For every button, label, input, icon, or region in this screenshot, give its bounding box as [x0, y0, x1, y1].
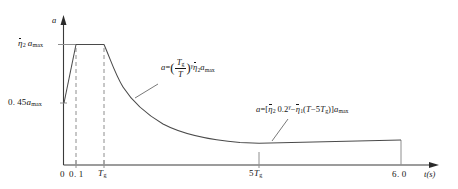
curve-segment-linear-decay: [259, 140, 401, 143]
curve-segment-rise: [64, 45, 76, 104]
y-tick-label-eta2amax: η2 amax: [18, 39, 43, 48]
x-tick-label-t01: 0. 1: [69, 170, 84, 179]
y-axis: [61, 15, 67, 165]
y-axis-label: a: [52, 16, 56, 25]
spectrum-plot-svg: [0, 0, 458, 189]
leader-linear-formula: [272, 119, 288, 141]
x-tick-label-tg: Tg: [98, 169, 106, 178]
x-tick-label-60: 6. 0: [392, 170, 407, 179]
leader-decay-formula: [135, 84, 158, 98]
x-axis-label: t(s): [424, 170, 435, 179]
x-tick-label-zero: 0: [60, 170, 65, 179]
response-spectrum-figure: a t(s) η2 amax 0. 45amax 0 0. 1 Tg 5Tg 6…: [0, 0, 458, 189]
spectrum-curve: [64, 45, 401, 144]
x-tick-label-5tg: 5Tg: [249, 169, 262, 178]
annotation-linear-formula: a=[η2 0.2γ−η1(T−5Tg)]amax: [256, 105, 348, 115]
annotation-decay-formula: a=(TgT)γη2amax: [161, 58, 215, 79]
y-tick-label-p45amax: 0. 45amax: [8, 98, 42, 107]
